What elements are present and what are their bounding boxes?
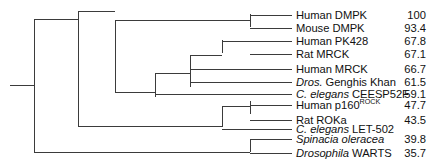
similarity-value: 93.4 xyxy=(366,22,426,35)
leaf-labels-layer: Human DMPK100Mouse DMPK93.4Human PK42867… xyxy=(0,0,432,164)
similarity-value: 67.1 xyxy=(366,48,426,61)
similarity-value: 67.8 xyxy=(366,35,426,48)
similarity-value: 66.7 xyxy=(366,63,426,76)
similarity-value: 47.7 xyxy=(366,99,426,112)
phylogenetic-tree-figure: Human DMPK100Mouse DMPK93.4Human PK42867… xyxy=(0,0,432,164)
similarity-value: 39.8 xyxy=(366,133,426,146)
taxon-name: Human PK428 xyxy=(296,35,368,48)
similarity-value: 35.7 xyxy=(366,147,426,160)
taxon-name: Mouse DMPK xyxy=(296,22,365,35)
taxon-name: Rat MRCK xyxy=(296,48,349,61)
taxon-name: Human DMPK xyxy=(296,9,367,22)
similarity-value: 100 xyxy=(366,9,426,22)
taxon-name: Human MRCK xyxy=(296,63,368,76)
